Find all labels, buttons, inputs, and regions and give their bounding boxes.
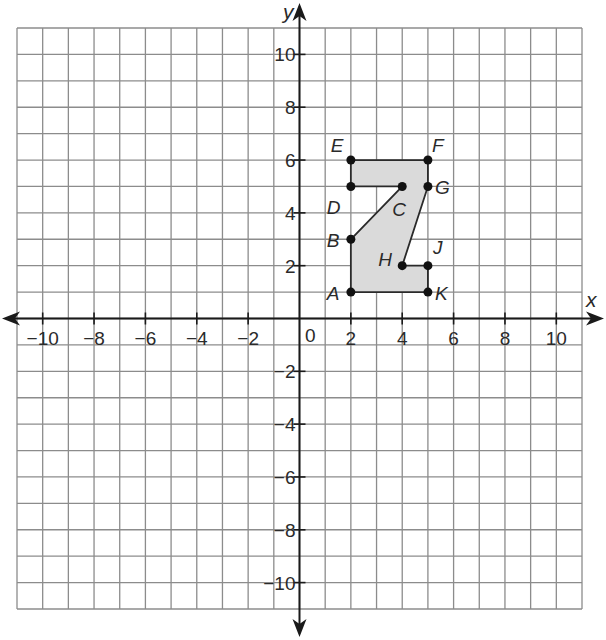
- y-tick-label: −6: [274, 467, 296, 488]
- origin-label: 0: [305, 325, 316, 346]
- point-dot-icon: [346, 156, 355, 165]
- point-dot-icon: [398, 261, 407, 270]
- point-label: J: [432, 237, 443, 258]
- x-tick-label: −6: [135, 328, 157, 349]
- x-tick-label: 10: [546, 328, 567, 349]
- point-label: B: [327, 230, 340, 251]
- y-tick-label: −8: [274, 520, 296, 541]
- point-label: C: [392, 199, 406, 220]
- point-dot-icon: [423, 182, 432, 191]
- point-dot-icon: [346, 235, 355, 244]
- y-tick-label: −4: [274, 414, 296, 435]
- y-tick-label: −2: [274, 361, 296, 382]
- point-dot-icon: [423, 156, 432, 165]
- x-tick-label: −8: [83, 328, 105, 349]
- y-tick-label: 10: [274, 44, 295, 65]
- y-tick-label: 2: [285, 256, 296, 277]
- x-tick-label: −2: [237, 328, 259, 349]
- point-label: K: [435, 283, 449, 304]
- y-tick-label: 4: [285, 203, 296, 224]
- shaded-polygon: [351, 160, 428, 292]
- point-dot-icon: [423, 288, 432, 297]
- y-tick-label: 8: [285, 97, 296, 118]
- axes: [2, 3, 604, 637]
- x-tick-label: 6: [448, 328, 459, 349]
- point-dot-icon: [423, 261, 432, 270]
- x-tick-label: −10: [27, 328, 59, 349]
- coordinate-plane: −10−8−6−4−2246810108642−2−4−6−8−10 ABCDE…: [0, 0, 606, 640]
- point-label: D: [327, 197, 341, 218]
- point-dot-icon: [346, 288, 355, 297]
- x-tick-label: −4: [186, 328, 208, 349]
- point-label: A: [326, 283, 340, 304]
- point-label: H: [378, 249, 392, 270]
- shaded-region: [351, 160, 428, 292]
- point-dot-icon: [346, 182, 355, 191]
- y-tick-label: 6: [285, 150, 296, 171]
- point-label: G: [435, 177, 450, 198]
- point-dot-icon: [398, 182, 407, 191]
- point-label: F: [432, 135, 445, 156]
- x-tick-label: 8: [500, 328, 511, 349]
- x-axis-label: x: [585, 288, 598, 311]
- x-tick-label: 2: [346, 328, 357, 349]
- point-label: E: [331, 135, 344, 156]
- y-axis-label: y: [281, 0, 295, 23]
- x-tick-label: 4: [397, 328, 408, 349]
- y-tick-label: −10: [263, 573, 295, 594]
- point-c: C: [392, 182, 407, 221]
